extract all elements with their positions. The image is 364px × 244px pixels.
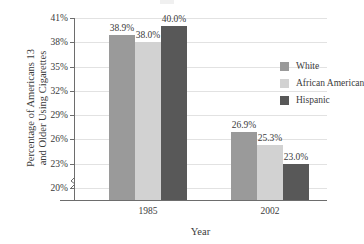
y-axis-tick bbox=[70, 18, 75, 19]
legend-swatch-icon bbox=[280, 79, 289, 88]
scan-artifact bbox=[160, 0, 174, 4]
axis-break-icon bbox=[69, 176, 81, 190]
y-axis-tick-label: 35% bbox=[51, 62, 68, 72]
bar bbox=[161, 26, 187, 200]
y-axis-tick bbox=[70, 139, 75, 140]
y-axis-tick-label: 23% bbox=[51, 159, 68, 169]
legend-swatch-icon bbox=[280, 62, 289, 71]
legend-swatch-icon bbox=[280, 96, 289, 105]
x-axis-tick-label: 2002 bbox=[261, 206, 280, 216]
y-axis-title-line-2: and Older Using Cigarettes bbox=[37, 51, 49, 166]
bar bbox=[231, 132, 257, 200]
y-axis-tick bbox=[70, 115, 75, 116]
y-axis-tick-label: 38% bbox=[51, 37, 68, 47]
legend-label: Hispanic bbox=[296, 95, 330, 105]
y-axis-tick bbox=[70, 42, 75, 43]
legend-item: Hispanic bbox=[280, 93, 364, 107]
bar-value-label: 38.0% bbox=[136, 30, 161, 40]
y-axis-tick bbox=[70, 67, 75, 68]
y-axis-tick bbox=[70, 91, 75, 92]
bar bbox=[257, 145, 283, 200]
x-axis-line bbox=[60, 200, 327, 201]
gridline bbox=[75, 18, 327, 19]
bar-value-label: 38.9% bbox=[110, 23, 135, 33]
y-axis-title: Percentage of Americans 13 and Older Usi… bbox=[22, 20, 52, 196]
y-axis-tick bbox=[70, 164, 75, 165]
y-axis-tick-label: 29% bbox=[51, 110, 68, 120]
bar bbox=[135, 42, 161, 200]
bar-value-label: 25.3% bbox=[258, 133, 283, 143]
y-axis-tick-label: 41% bbox=[51, 13, 68, 23]
bar-value-label: 40.0% bbox=[162, 14, 187, 24]
legend: WhiteAfrican AmericanHispanic bbox=[280, 59, 364, 110]
legend-item: African American bbox=[280, 76, 364, 90]
bar-value-label: 23.0% bbox=[284, 152, 309, 162]
y-axis-tick-label: 20% bbox=[51, 183, 68, 193]
y-axis-title-line-1: Percentage of Americans 13 bbox=[25, 49, 37, 167]
bar-value-label: 26.9% bbox=[232, 120, 257, 130]
y-axis-tick-label: 32% bbox=[51, 86, 68, 96]
bar bbox=[283, 164, 309, 200]
plot-area: 41%38%35%32%29%26%23%20% 38.9%38.0%40.0%… bbox=[74, 18, 327, 200]
legend-item: White bbox=[280, 59, 364, 73]
legend-label: African American bbox=[296, 78, 364, 88]
legend-label: White bbox=[296, 61, 319, 71]
x-axis-tick-label: 1985 bbox=[139, 206, 158, 216]
x-axis-title: Year bbox=[74, 226, 327, 237]
y-axis-line bbox=[74, 18, 75, 200]
bar bbox=[109, 35, 135, 200]
y-axis-tick-label: 26% bbox=[51, 134, 68, 144]
